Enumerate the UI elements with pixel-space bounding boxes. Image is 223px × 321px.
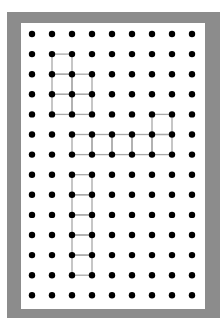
grid-dot xyxy=(189,172,195,178)
unit-square xyxy=(52,94,72,114)
grid-dot xyxy=(189,111,195,117)
unit-square xyxy=(112,135,132,155)
grid-dot xyxy=(69,131,75,137)
grid-dot xyxy=(149,91,155,97)
unit-square xyxy=(132,135,152,155)
grid-dot xyxy=(49,252,55,258)
grid-dot xyxy=(89,232,95,238)
unit-square xyxy=(52,54,72,74)
shape-2-hexomino xyxy=(72,114,172,154)
grid-dot xyxy=(169,131,175,137)
grid-dot xyxy=(69,111,75,117)
grid-dot xyxy=(109,151,115,157)
grid-dot xyxy=(149,232,155,238)
grid-dot xyxy=(129,91,135,97)
grid-dot xyxy=(189,212,195,218)
grid-dot xyxy=(49,31,55,37)
grid-dot xyxy=(129,172,135,178)
unit-square xyxy=(72,94,92,114)
grid-dot xyxy=(149,111,155,117)
grid-dot xyxy=(29,172,35,178)
grid-dot xyxy=(189,192,195,198)
grid-dot xyxy=(69,212,75,218)
grid-dot xyxy=(189,292,195,298)
grid-dot xyxy=(49,71,55,77)
grid-dot xyxy=(109,91,115,97)
grid-dot xyxy=(129,272,135,278)
grid-dot xyxy=(169,252,175,258)
grid-dot xyxy=(109,71,115,77)
grid-dot xyxy=(169,212,175,218)
grid-dot xyxy=(149,71,155,77)
shape-lines xyxy=(52,54,172,275)
grid-dot xyxy=(49,212,55,218)
grid-dot xyxy=(189,71,195,77)
grid-dot xyxy=(29,212,35,218)
grid-dot xyxy=(69,272,75,278)
grid-dot xyxy=(109,131,115,137)
grid-dot xyxy=(129,51,135,57)
grid-dot xyxy=(89,51,95,57)
grid-dot xyxy=(189,91,195,97)
unit-square xyxy=(92,135,112,155)
grid-dot xyxy=(29,71,35,77)
grid-dot xyxy=(169,272,175,278)
grid-dot xyxy=(149,292,155,298)
grid-dot xyxy=(109,51,115,57)
grid-dot xyxy=(189,131,195,137)
grid-dot xyxy=(89,172,95,178)
grid-dot xyxy=(69,31,75,37)
grid-dot xyxy=(189,151,195,157)
grid-dot xyxy=(49,131,55,137)
grid-dot xyxy=(29,252,35,258)
grid-dot xyxy=(129,71,135,77)
grid-dot xyxy=(149,252,155,258)
grid-dot xyxy=(169,111,175,117)
grid-dot xyxy=(149,151,155,157)
grid-dot xyxy=(29,272,35,278)
grid-dot xyxy=(129,192,135,198)
grid-dot xyxy=(89,131,95,137)
grid-dot xyxy=(89,111,95,117)
grid-dot xyxy=(129,252,135,258)
grid-dot xyxy=(149,192,155,198)
grid-dot xyxy=(49,232,55,238)
grid-dot xyxy=(109,232,115,238)
grid-dot xyxy=(29,192,35,198)
grid-dot xyxy=(129,131,135,137)
grid-dot xyxy=(49,272,55,278)
grid-dot xyxy=(69,252,75,258)
grid-dot xyxy=(189,51,195,57)
shape-1-pentomino xyxy=(52,54,92,114)
grid-dot xyxy=(129,31,135,37)
grid-dot xyxy=(89,31,95,37)
grid-dot xyxy=(49,91,55,97)
unit-square xyxy=(152,135,172,155)
grid-dot xyxy=(69,91,75,97)
grid-dot xyxy=(109,212,115,218)
grid-dot xyxy=(149,51,155,57)
grid-dot xyxy=(109,111,115,117)
grid-dot xyxy=(29,151,35,157)
grid-dot xyxy=(189,232,195,238)
grid-dot xyxy=(89,292,95,298)
grid-dot xyxy=(169,232,175,238)
grid-dot xyxy=(49,151,55,157)
grid-dot xyxy=(169,192,175,198)
unit-square xyxy=(72,195,92,215)
grid-dot xyxy=(109,292,115,298)
grid-dot xyxy=(109,31,115,37)
grid-dot xyxy=(29,131,35,137)
grid-dot xyxy=(169,91,175,97)
grid-dot xyxy=(69,192,75,198)
unit-square xyxy=(72,74,92,94)
grid-dot xyxy=(109,192,115,198)
unit-square xyxy=(152,114,172,134)
grid-dot xyxy=(109,272,115,278)
grid-dot xyxy=(69,292,75,298)
grid-dot xyxy=(69,51,75,57)
grid-dot xyxy=(29,91,35,97)
grid-dot xyxy=(29,232,35,238)
grid-dot xyxy=(149,212,155,218)
grid-dot xyxy=(169,172,175,178)
